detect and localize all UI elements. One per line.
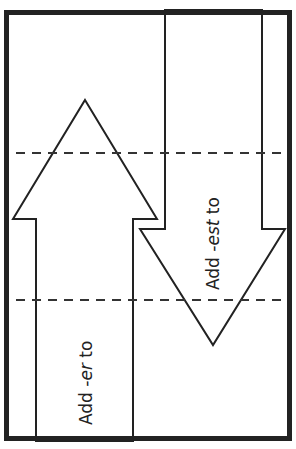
diagram-canvas: Add -er to Add -est to (0, 0, 296, 449)
down-arrow-icon (140, 10, 285, 345)
down-arrow-label: Add -est to (203, 197, 223, 290)
worksheet-diagram: Add -er to Add -est to (0, 0, 296, 449)
up-arrow-label: Add -er to (76, 341, 96, 425)
